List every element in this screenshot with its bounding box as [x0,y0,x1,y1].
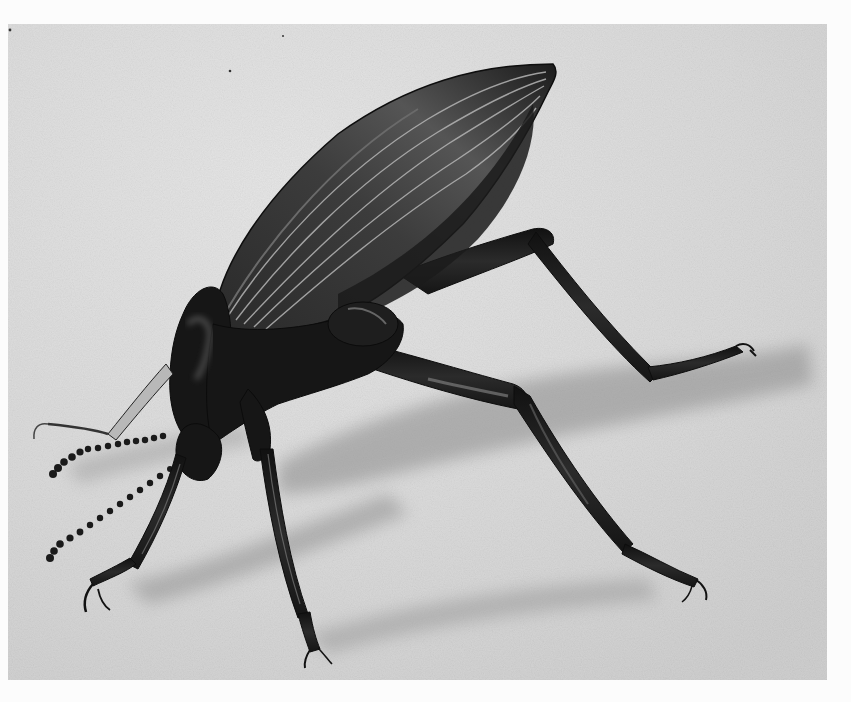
beetle-illustration [8,24,827,680]
page [0,0,851,702]
beetle-photograph [8,24,827,680]
